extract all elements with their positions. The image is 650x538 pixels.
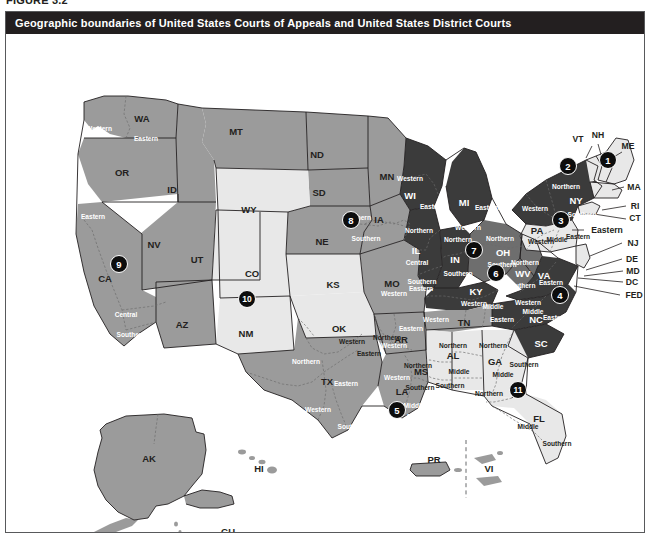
territory-mp-islands [174, 521, 188, 532]
state-az [156, 280, 216, 348]
circuit-badge-11[interactable]: 11 [509, 381, 527, 399]
state-wy [216, 168, 310, 212]
circuit-badge-1[interactable]: 1 [599, 151, 617, 169]
circuit-badge-6[interactable]: 6 [487, 264, 505, 282]
state-fl [484, 394, 566, 464]
state-or [78, 138, 178, 202]
state-sd [308, 168, 370, 206]
state-ar [374, 312, 426, 354]
figure-title-bar: Geographic boundaries of United States C… [6, 12, 644, 34]
circuit-badge-5[interactable]: 5 [388, 401, 406, 419]
circuit-badge-9[interactable]: 9 [110, 255, 128, 273]
state-hi-islands [238, 450, 277, 474]
state-mt [202, 108, 308, 170]
state-co [218, 210, 290, 298]
figure-number-label: FIGURE 3.2 [6, 0, 68, 6]
figure-page: FIGURE 3.2 Geographic boundaries of Unit… [0, 0, 650, 538]
territory-pr-islet [454, 468, 462, 472]
circuit-badge-3[interactable]: 3 [552, 211, 570, 229]
circuit-badge-10[interactable]: 10 [238, 290, 256, 308]
circuit-badge-4[interactable]: 4 [551, 286, 569, 304]
state-ne [286, 206, 372, 254]
state-al [452, 330, 484, 390]
us-circuits-map-svg [6, 34, 644, 532]
circuit-badge-7[interactable]: 7 [465, 241, 483, 259]
figure-frame: Geographic boundaries of United States C… [5, 11, 645, 533]
state-wa [84, 96, 178, 138]
map-landmasses [76, 96, 634, 532]
state-nm [216, 296, 294, 354]
state-nj [576, 244, 590, 268]
state-ks [286, 254, 364, 296]
state-ak-chain [94, 518, 138, 532]
state-ma [590, 182, 622, 198]
circuit-badge-2[interactable]: 2 [559, 157, 577, 175]
territory-vi-islands [474, 451, 503, 486]
state-nd [306, 112, 368, 170]
map-canvas: WAMTNDMNORIDSDWYWIMIIANENVUTILINOHPANYCA… [6, 34, 644, 532]
figure-title-text: Geographic boundaries of United States C… [15, 17, 512, 29]
state-nv [140, 202, 216, 290]
circuit-badge-8[interactable]: 8 [342, 211, 360, 229]
state-wi [400, 138, 446, 210]
